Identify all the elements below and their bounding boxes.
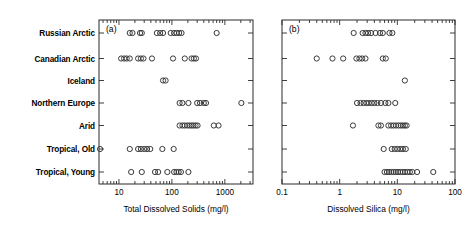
data-point: [431, 169, 436, 174]
data-point: [165, 169, 170, 174]
x-tick-label: 100: [165, 188, 179, 197]
x-tick-label: 100: [448, 188, 462, 197]
data-point: [381, 146, 386, 151]
x-tick-label: 1000: [216, 188, 234, 197]
category-label-iceland: Iceland: [67, 76, 95, 85]
series-canadian-arctic: [119, 56, 199, 61]
data-point: [363, 56, 368, 61]
series-tropical-old: [97, 146, 176, 151]
data-point: [186, 169, 191, 174]
category-label-northern-europe: Northern Europe: [31, 99, 95, 108]
data-point: [341, 56, 346, 61]
series-tropical-young: [129, 169, 191, 174]
data-point: [156, 169, 161, 174]
series-russian-arctic: [127, 30, 219, 35]
data-point: [129, 169, 134, 174]
data-point: [127, 146, 132, 151]
series-northern-europe: [177, 100, 244, 105]
data-point: [330, 56, 335, 61]
series-tropical-young: [382, 169, 436, 174]
data-point: [239, 100, 244, 105]
series-russian-arctic: [351, 30, 395, 35]
data-point: [393, 100, 398, 105]
figure-scatter-panels: 101001000Total Dissolved Solids (mg/l)(a…: [0, 0, 475, 233]
data-point: [350, 123, 355, 128]
data-point: [171, 146, 176, 151]
data-point: [170, 56, 175, 61]
panel-tag: (b): [289, 24, 300, 34]
series-iceland: [402, 78, 407, 83]
data-point: [149, 56, 154, 61]
series-canadian-arctic: [314, 56, 388, 61]
category-label-arid: Arid: [79, 121, 95, 130]
plot-frame: [99, 20, 253, 184]
x-axis-title: Dissolved Silica (mg/l): [282, 204, 455, 214]
data-point: [148, 146, 153, 151]
data-point: [214, 30, 219, 35]
data-point: [186, 100, 191, 105]
category-label-canadian-arctic: Canadian Arctic: [34, 54, 95, 63]
data-point: [182, 56, 187, 61]
data-point: [160, 146, 165, 151]
data-point: [351, 30, 356, 35]
data-point: [402, 78, 407, 83]
series-northern-europe: [354, 100, 397, 105]
x-tick-label: 10: [114, 188, 123, 197]
series-arid: [177, 123, 221, 128]
panel-a: [97, 20, 253, 184]
series-arid: [350, 123, 409, 128]
category-label-tropical-young: Tropical, Young: [36, 168, 95, 177]
category-label-tropical-old: Tropical, Old: [47, 145, 95, 154]
series-tropical-old: [381, 146, 408, 151]
data-point: [314, 56, 319, 61]
panel-tag: (a): [106, 24, 117, 34]
x-tick-label: 10: [393, 188, 402, 197]
panel-b: [282, 20, 455, 184]
series-iceland: [160, 78, 168, 83]
x-tick-label: 1: [337, 188, 342, 197]
data-point: [139, 169, 144, 174]
x-tick-label: 0.1: [276, 188, 287, 197]
category-label-russian-arctic: Russian Arctic: [39, 29, 95, 38]
x-axis-title: Total Dissolved Solids (mg/l): [99, 204, 253, 214]
